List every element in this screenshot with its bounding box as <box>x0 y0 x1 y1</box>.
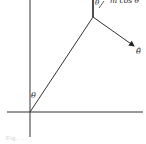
figure-caption: Fig. ... <box>6 135 27 141</box>
theta-origin-label: θ <box>31 91 36 100</box>
m-cos-theta-label: m cos θ <box>110 0 139 5</box>
vector-diagram: θ θ m cos θ θ̂ <box>0 0 146 144</box>
theta-hat-arrow <box>93 17 134 46</box>
radial-line <box>30 17 93 112</box>
theta-top-label: θ <box>95 0 100 7</box>
component-tick <box>99 1 104 8</box>
theta-hat-label: θ̂ <box>136 47 141 56</box>
